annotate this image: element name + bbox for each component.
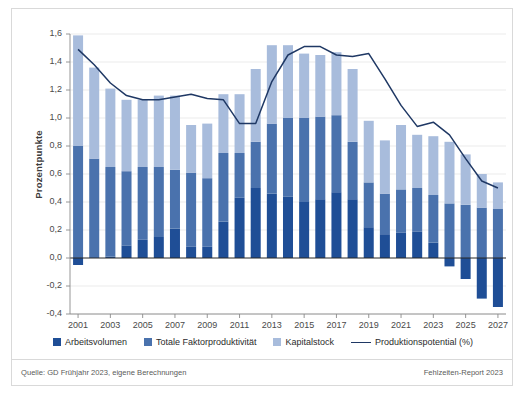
bar-segment [331, 192, 341, 258]
bar-segment [461, 154, 471, 204]
chart-legend: ArbeitsvolumenTotale Faktorproduktivität… [12, 337, 514, 347]
bar-segment [186, 247, 196, 258]
bar-segment [299, 118, 309, 202]
y-tick-label: 1,0 [28, 112, 62, 122]
bar-segment [364, 182, 374, 227]
bar-segment [412, 231, 422, 258]
y-tick-label: -0,4 [28, 308, 62, 318]
bar-segment [122, 171, 132, 245]
bar-segment [444, 142, 454, 204]
legend-label: Kapitalstock [285, 337, 334, 347]
bar-segment [380, 234, 390, 258]
bar-segment [348, 199, 358, 258]
bar-segment [267, 194, 277, 258]
bar-segment [267, 124, 277, 194]
bar-segment [348, 69, 358, 142]
bar-segment [331, 115, 341, 192]
bar-segment [154, 96, 164, 167]
bar-segment [154, 237, 164, 258]
legend-swatch-icon [53, 338, 61, 346]
bar-segment [251, 188, 261, 258]
bar-segment [251, 69, 261, 142]
bar-segment [138, 240, 148, 258]
plot-area: Prozentpunkte 1,61,41,21,00,80,60,40,20,… [12, 9, 514, 387]
bar-segment [461, 205, 471, 258]
bar-segment [89, 159, 99, 258]
bar-segment [315, 199, 325, 258]
legend-item[interactable]: Totale Faktorproduktivität [144, 337, 257, 347]
chart-panel: Prozentpunkte 1,61,41,21,00,80,60,40,20,… [11, 8, 513, 386]
bar-segment [331, 52, 341, 115]
bar-segment [186, 173, 196, 247]
bar-segment [138, 167, 148, 240]
bar-segment [170, 170, 180, 229]
bar-segment [493, 209, 503, 258]
chart-svg [12, 9, 514, 339]
bar-segment [202, 178, 212, 247]
y-tick-label: 1,2 [28, 84, 62, 94]
bar-segment [122, 100, 132, 171]
figure-footer: Quelle: GD Frühjahr 2023, eigene Berechn… [12, 359, 512, 385]
bar-segment [396, 125, 406, 189]
bar-segment [348, 142, 358, 199]
bar-segment [444, 258, 454, 266]
bar-segment [218, 222, 228, 258]
legend-label: Produktionspotential (%) [375, 337, 473, 347]
y-tick-label: 0,2 [28, 224, 62, 234]
bar-segment [315, 55, 325, 117]
bar-segment [477, 174, 487, 208]
legend-item[interactable]: Arbeitsvolumen [53, 337, 127, 347]
bar-segment [364, 227, 374, 258]
legend-line-icon [351, 342, 371, 343]
bar-segment [299, 202, 309, 258]
bar-segment [267, 45, 277, 123]
bar-segment [105, 89, 115, 167]
bar-segment [283, 196, 293, 258]
legend-item[interactable]: Produktionspotential (%) [351, 337, 473, 347]
legend-swatch-icon [144, 338, 152, 346]
legend-swatch-icon [273, 338, 281, 346]
bar-segment [477, 208, 487, 258]
bar-segment [299, 54, 309, 118]
y-tick-label: 1,4 [28, 56, 62, 66]
y-tick-label: 0,0 [28, 252, 62, 262]
bar-segment [412, 135, 422, 188]
bar-segment [283, 118, 293, 196]
bar-segment [105, 167, 115, 257]
bar-segment [315, 117, 325, 200]
y-tick-label: 0,8 [28, 140, 62, 150]
bar-segment [154, 167, 164, 237]
legend-label: Totale Faktorproduktivität [156, 337, 257, 347]
bar-segment [461, 258, 471, 279]
y-tick-label: 0,4 [28, 196, 62, 206]
bar-segment [202, 247, 212, 258]
bar-segment [364, 121, 374, 183]
report-note: Fehlzeiten-Report 2023 [424, 368, 503, 377]
bar-segment [122, 245, 132, 258]
legend-label: Arbeitsvolumen [65, 337, 127, 347]
bar-segment [218, 153, 228, 222]
legend-item[interactable]: Kapitalstock [273, 337, 334, 347]
bar-segment [412, 188, 422, 231]
source-note: Quelle: GD Frühjahr 2023, eigene Berechn… [21, 368, 186, 377]
bar-segment [170, 229, 180, 258]
bar-segment [89, 68, 99, 159]
bar-segment [138, 100, 148, 167]
bar-segment [170, 96, 180, 170]
bar-segment [396, 233, 406, 258]
y-tick-label: 1,6 [28, 28, 62, 38]
y-tick-label: 0,6 [28, 168, 62, 178]
bar-segment [73, 146, 83, 258]
bar-segment [73, 258, 83, 265]
y-tick-label: -0,2 [28, 280, 62, 290]
bar-segment [186, 125, 196, 173]
bar-segment [477, 258, 487, 299]
bar-segment [235, 153, 245, 198]
x-tick-label: 2027 [478, 320, 518, 330]
bar-segment [380, 140, 390, 193]
figure-container: Prozentpunkte 1,61,41,21,00,80,60,40,20,… [0, 0, 524, 395]
bar-segment [251, 142, 261, 188]
bar-segment [202, 124, 212, 179]
bar-segment [493, 258, 503, 307]
bar-segment [235, 198, 245, 258]
